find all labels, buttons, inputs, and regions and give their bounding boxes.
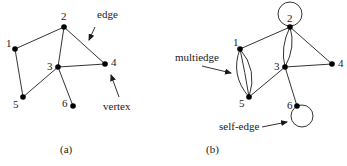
vertex-b-4 — [329, 61, 335, 67]
vertex-label-b-3: 3 — [274, 60, 280, 72]
arrow-edge — [89, 27, 95, 40]
vertex-label-b-2: 2 — [287, 12, 293, 24]
arrow-multiedge — [202, 66, 231, 73]
vertex-b-6 — [294, 103, 300, 109]
edge-b-2-4 — [290, 27, 332, 64]
vertex-b-3 — [282, 64, 288, 70]
caption-b: (b) — [206, 143, 219, 156]
panel-a: 1 2 3 4 5 6 edge vertex (a) — [6, 8, 131, 156]
annotation-vertex: vertex — [103, 100, 131, 112]
vertex-label-b-5: 5 — [239, 97, 245, 109]
annotation-edge: edge — [97, 8, 118, 20]
edge-b-1-2 — [240, 27, 290, 49]
arrow-self-edge — [262, 122, 287, 127]
multiedge-b-2-3-b — [285, 27, 292, 67]
vertex-label-a-2: 2 — [61, 10, 67, 22]
vertex-label-b-1: 1 — [233, 36, 239, 48]
annotation-self-edge: self-edge — [219, 120, 259, 132]
vertex-label-a-3: 3 — [47, 60, 53, 72]
caption-a: (a) — [60, 143, 73, 156]
vertex-label-a-4: 4 — [111, 56, 117, 68]
edge-a-3-4 — [58, 64, 105, 67]
vertex-a-2 — [61, 24, 67, 30]
edge-a-1-5 — [15, 49, 23, 97]
edge-a-2-4 — [64, 27, 105, 64]
vertex-a-6 — [70, 103, 76, 109]
vertex-a-1 — [12, 46, 18, 52]
edge-b-3-4 — [285, 64, 332, 67]
annotation-multiedge: multiedge — [175, 51, 219, 63]
multiedge-b-1-5-a — [237, 49, 249, 97]
edge-a-2-3 — [58, 27, 64, 67]
self-edge-b-6 — [291, 105, 313, 127]
vertex-label-b-4: 4 — [338, 57, 344, 69]
vertex-label-b-6: 6 — [287, 99, 293, 111]
panel-b: 1 2 3 4 5 6 multiedge self-edge (b) — [175, 2, 344, 156]
arrow-vertex — [111, 75, 119, 97]
vertex-label-a-6: 6 — [62, 97, 68, 109]
vertex-a-5 — [20, 94, 26, 100]
vertex-label-a-1: 1 — [6, 37, 12, 49]
network-diagram: 1 2 3 4 5 6 edge vertex (a) 1 2 3 — [0, 0, 347, 166]
edge-a-1-2 — [15, 27, 64, 49]
edge-b-3-5 — [249, 67, 285, 97]
multiedge-b-2-3-a — [283, 27, 290, 67]
vertex-b-2 — [287, 24, 293, 30]
vertex-a-3 — [55, 64, 61, 70]
vertex-b-5 — [246, 94, 252, 100]
multiedge-b-1-5-b — [240, 49, 249, 97]
edge-a-3-5 — [23, 67, 58, 97]
vertex-a-4 — [102, 61, 108, 67]
vertex-label-a-5: 5 — [13, 98, 19, 110]
